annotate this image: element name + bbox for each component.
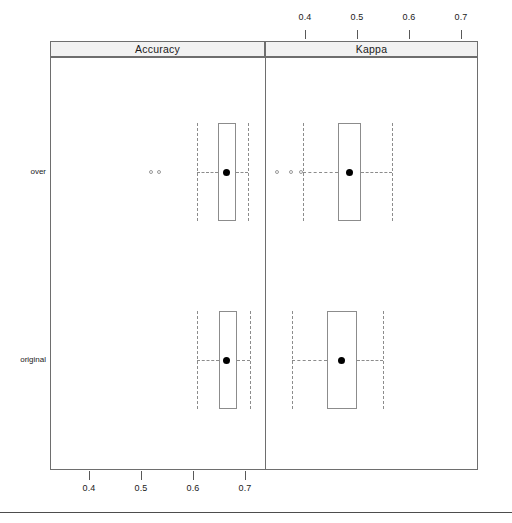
boxplot-kappa-original xyxy=(0,0,512,523)
whisker-cap-min xyxy=(292,311,293,409)
footer-rule xyxy=(0,512,512,513)
bwplot-figure: 0.40.50.60.7 0.40.50.60.7 overoriginal A… xyxy=(0,0,512,523)
whisker-cap-max xyxy=(383,311,384,409)
whisker-line-upper xyxy=(357,360,383,361)
whisker-line-lower xyxy=(292,360,327,361)
median-point xyxy=(338,357,345,364)
